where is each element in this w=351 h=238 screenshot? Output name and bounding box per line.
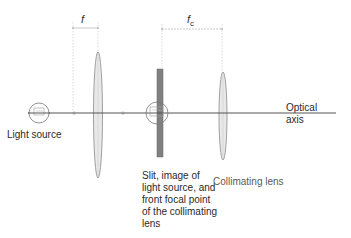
focal-length-label: f [81,13,84,25]
optical-axis-label-line1: Optical [286,102,317,114]
slit-label-line2: light source, and [142,182,215,194]
optical-axis-label-line2: axis [286,114,304,126]
collimator-focal-sub: c [190,19,194,28]
slit-label-line1: Slit, image of [142,170,200,182]
collimator-focal-length-dimension [161,24,223,72]
focal-point-front [72,111,75,114]
slit-label-line3: front focal point [142,194,210,206]
light-source-label: Light source [7,129,61,141]
slit-label-line4: of the collimating [142,206,217,218]
collimator-focal-length-symbol: fc [187,13,194,28]
collimating-lens-label: Collimating lens [213,176,284,188]
slit-label-line5: lens [142,218,160,230]
focal-length-symbol: f [81,13,84,25]
light-source-icon [28,103,50,123]
focal-point-back [121,111,124,114]
